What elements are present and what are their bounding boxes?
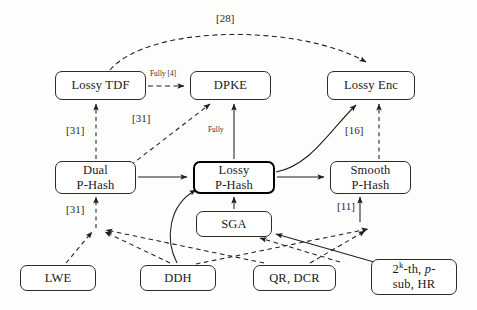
node-smooth-p-hash[interactable]: Smooth P-Hash bbox=[330, 161, 411, 194]
node-label: QR, DCR bbox=[269, 271, 320, 286]
edge-label-fully: Fully bbox=[208, 126, 224, 134]
diagram-canvas: Lossy TDF DPKE Lossy Enc Dual P-Hash Los… bbox=[0, 0, 477, 310]
node-label: Lossy Enc bbox=[344, 78, 398, 93]
edge-lossy-tdf-to-lossy-enc bbox=[110, 34, 366, 70]
node-label-line2: P-Hash bbox=[76, 178, 114, 193]
node-lossy-p-hash[interactable]: Lossy P-Hash bbox=[193, 161, 275, 194]
node-label: Lossy TDF bbox=[71, 78, 129, 93]
edge-label-cite-31-lossy-tdf: [31] bbox=[66, 124, 84, 136]
node-qr-dcr[interactable]: QR, DCR bbox=[253, 265, 336, 291]
edge-pow-assump-to-sga-dashed bbox=[260, 238, 340, 262]
node-dual-p-hash[interactable]: Dual P-Hash bbox=[55, 161, 136, 194]
node-label-line1: Lossy bbox=[219, 163, 250, 178]
node-lossy-tdf[interactable]: Lossy TDF bbox=[55, 71, 146, 100]
edge-qr-dcr-to-smooth-phash bbox=[310, 231, 365, 263]
node-dpke[interactable]: DPKE bbox=[190, 71, 271, 100]
node-label-line1: 2k-th, p- bbox=[392, 262, 435, 277]
node-lossy-enc[interactable]: Lossy Enc bbox=[327, 71, 415, 100]
edge-label-fully-4: Fully [4] bbox=[150, 70, 176, 78]
edge-lwe-to-dual-phash bbox=[66, 232, 92, 263]
node-label-line1: Dual bbox=[83, 163, 108, 178]
node-sga[interactable]: SGA bbox=[196, 211, 272, 237]
node-label: LWE bbox=[45, 271, 72, 286]
edge-label-cite-11: [11] bbox=[337, 200, 355, 212]
node-label-line2: P-Hash bbox=[215, 178, 253, 193]
node-label-line1: Smooth bbox=[350, 163, 390, 178]
node-label-line2: P-Hash bbox=[351, 178, 389, 193]
node-label: DPKE bbox=[214, 78, 247, 93]
node-lwe[interactable]: LWE bbox=[20, 265, 96, 291]
edge-label-cite-31-lwe: [31] bbox=[66, 203, 84, 215]
edge-ddh-to-lossy-phash bbox=[170, 190, 196, 263]
node-ddh[interactable]: DDH bbox=[140, 265, 216, 291]
edge-label-cite-31-dpke: [31] bbox=[132, 112, 150, 124]
edge-label-cite-16: [16] bbox=[345, 124, 363, 136]
edge-ddh-to-dual-phash bbox=[105, 232, 170, 263]
node-label-line2: sub, HR bbox=[393, 277, 435, 292]
node-label: DDH bbox=[164, 271, 192, 286]
node-label: SGA bbox=[221, 217, 247, 232]
node-power-assumptions[interactable]: 2k-th, p- sub, HR bbox=[371, 259, 457, 295]
edge-label-cite-28: [28] bbox=[216, 12, 234, 24]
